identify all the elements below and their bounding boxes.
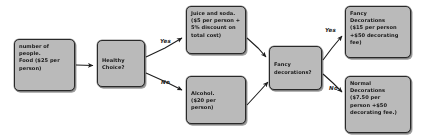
node-line: ($7.50 per xyxy=(350,94,407,101)
node-line: person) xyxy=(19,65,71,72)
node-line: ($5 per person + xyxy=(191,17,242,24)
node-line: +$50 decorating xyxy=(350,32,407,39)
node-line: ($20 per xyxy=(191,97,242,104)
node-line: Fancy xyxy=(274,61,318,68)
node-juice-and-soda: Juice and soda. ($5 per person + 5% disc… xyxy=(186,6,246,54)
node-line: decorating fee.) xyxy=(350,109,407,116)
node-normal-decorations-cost: Normal Decorations ($7.50 per person +$5… xyxy=(345,76,411,133)
node-line: Decorations xyxy=(350,17,407,24)
node-line: ($15 per person xyxy=(350,24,407,31)
edge-fancy-to-fancydec xyxy=(323,36,342,60)
flowchart-canvas: number of people. Food ($25 per person) … xyxy=(0,0,423,137)
node-line: person +$50 xyxy=(350,102,407,109)
edge-alcohol-to-fancy xyxy=(247,82,268,105)
node-alcohol: Alcohol. ($20 per person) xyxy=(186,76,246,124)
node-line: Alcohol. xyxy=(191,90,242,97)
node-line: Food ($25 per xyxy=(19,57,71,64)
node-healthy-choice-decision: Healthy Choice? xyxy=(97,40,145,87)
edge-label-fancy-yes: Yes xyxy=(325,27,336,33)
node-line: Choice? xyxy=(102,64,141,71)
node-line: Normal xyxy=(350,80,407,87)
node-line: number of xyxy=(19,43,71,50)
node-line: decorations? xyxy=(274,69,318,76)
node-line: Juice and soda. xyxy=(191,10,242,17)
node-line: Healthy xyxy=(102,57,141,64)
node-line: Fancy xyxy=(350,10,407,17)
node-food-cost: number of people. Food ($25 per person) xyxy=(14,39,75,91)
node-line: fee) xyxy=(350,39,407,46)
edge-label-healthy-no: No xyxy=(161,79,170,85)
node-line: Decorations xyxy=(350,87,407,94)
node-fancy-decorations-decision: Fancy decorations? xyxy=(269,46,322,90)
node-line: people. xyxy=(19,50,71,57)
edge-label-healthy-yes: Yes xyxy=(160,38,171,44)
node-fancy-decorations-cost: Fancy Decorations ($15 per person +$50 d… xyxy=(345,6,411,58)
edge-label-fancy-no: No xyxy=(329,85,338,91)
edge-juice-to-fancy xyxy=(247,38,266,57)
node-line: total cost) xyxy=(191,32,242,39)
edge-food-to-healthy xyxy=(76,65,93,66)
node-line: 5% discount on xyxy=(191,24,242,31)
node-line: person) xyxy=(191,104,242,111)
